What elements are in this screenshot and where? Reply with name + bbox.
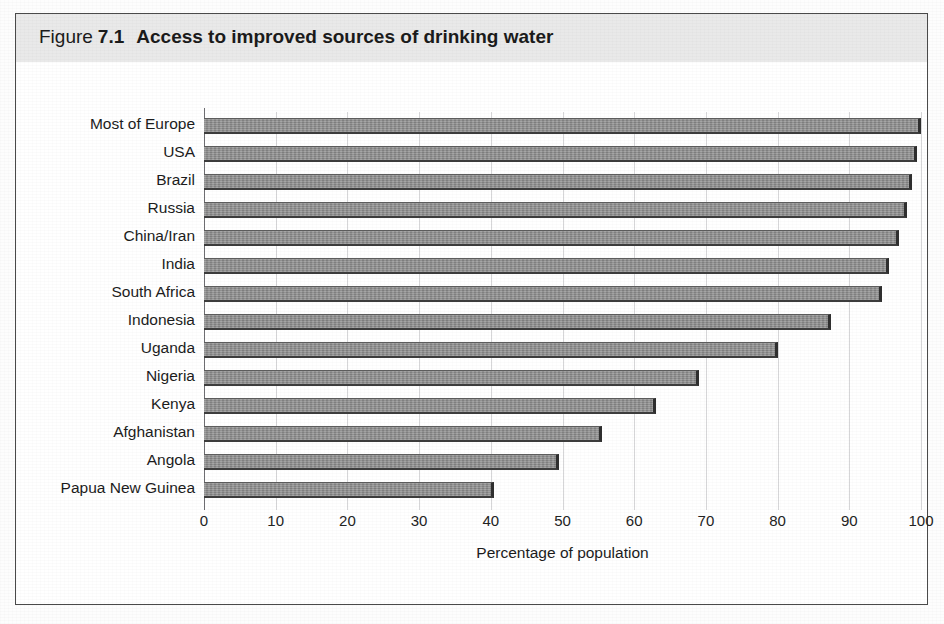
category-label: China/Iran bbox=[123, 227, 195, 245]
bar-row: India bbox=[204, 252, 921, 280]
bar-row: Russia bbox=[204, 196, 921, 224]
figure-title: Figure7.1Access to improved sources of d… bbox=[39, 26, 553, 48]
category-label: Brazil bbox=[156, 171, 195, 189]
x-tick-label: 60 bbox=[626, 512, 643, 529]
category-label: Nigeria bbox=[146, 367, 195, 385]
bar-series: Most of EuropeUSABrazilRussiaChina/IranI… bbox=[204, 112, 921, 504]
bar bbox=[204, 454, 559, 470]
bar-row: Angola bbox=[204, 448, 921, 476]
bar-row: Kenya bbox=[204, 392, 921, 420]
x-tick-label: 50 bbox=[554, 512, 571, 529]
bar-row: Brazil bbox=[204, 168, 921, 196]
bar-row: Indonesia bbox=[204, 308, 921, 336]
figure-title-text: Access to improved sources of drinking w… bbox=[136, 26, 553, 47]
figure-header-band: Figure7.1Access to improved sources of d… bbox=[16, 14, 927, 62]
bar bbox=[204, 482, 494, 498]
x-tick-label: 90 bbox=[841, 512, 858, 529]
bar bbox=[204, 286, 882, 302]
bar bbox=[204, 314, 831, 330]
figure-number: 7.1 bbox=[98, 26, 124, 47]
bar-row: Nigeria bbox=[204, 364, 921, 392]
x-tick-label: 10 bbox=[267, 512, 284, 529]
x-tick-label: 40 bbox=[482, 512, 499, 529]
bar bbox=[204, 342, 778, 358]
bar bbox=[204, 398, 656, 414]
bar bbox=[204, 258, 889, 274]
figure-label: Figure bbox=[39, 26, 93, 47]
bar bbox=[204, 370, 699, 386]
x-tick-label: 80 bbox=[769, 512, 786, 529]
bar bbox=[204, 146, 917, 162]
bar-row: Most of Europe bbox=[204, 112, 921, 140]
category-label: USA bbox=[163, 143, 195, 161]
x-tick-label: 100 bbox=[908, 512, 933, 529]
bar bbox=[204, 174, 912, 190]
bar-row: Papua New Guinea bbox=[204, 476, 921, 504]
x-tick-label: 30 bbox=[411, 512, 428, 529]
category-label: Afghanistan bbox=[113, 423, 195, 441]
category-label: Uganda bbox=[141, 339, 195, 357]
chart-plot-area: Most of EuropeUSABrazilRussiaChina/IranI… bbox=[204, 112, 921, 504]
category-label: Papua New Guinea bbox=[61, 479, 195, 497]
bar-row: Afghanistan bbox=[204, 420, 921, 448]
x-tick-label: 0 bbox=[200, 512, 208, 529]
bar bbox=[204, 230, 899, 246]
category-label: South Africa bbox=[111, 283, 195, 301]
x-tick-label: 70 bbox=[698, 512, 715, 529]
gridline-100 bbox=[921, 112, 922, 510]
bar-row: South Africa bbox=[204, 280, 921, 308]
category-label: Kenya bbox=[151, 395, 195, 413]
category-label: Angola bbox=[147, 451, 195, 469]
x-axis-ticks: 0102030405060708090100 bbox=[204, 504, 921, 534]
x-axis-title: Percentage of population bbox=[204, 544, 921, 562]
category-label: Most of Europe bbox=[90, 115, 195, 133]
category-label: Russia bbox=[148, 199, 195, 217]
bar bbox=[204, 202, 907, 218]
bar-row: USA bbox=[204, 140, 921, 168]
bar-row: China/Iran bbox=[204, 224, 921, 252]
x-tick-label: 20 bbox=[339, 512, 356, 529]
bar bbox=[204, 426, 602, 442]
bar bbox=[204, 118, 921, 134]
bar-row: Uganda bbox=[204, 336, 921, 364]
figure-frame: Figure7.1Access to improved sources of d… bbox=[15, 13, 928, 605]
category-label: India bbox=[161, 255, 195, 273]
category-label: Indonesia bbox=[128, 311, 195, 329]
